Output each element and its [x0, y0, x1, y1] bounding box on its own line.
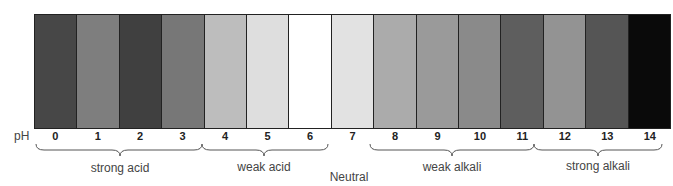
brace-strong-acid	[36, 144, 202, 156]
group-label-strong-acid: strong acid	[91, 161, 150, 175]
brace-weak-alkali	[370, 144, 534, 156]
brace-weak-acid	[202, 144, 328, 156]
group-label-weak-acid: weak acid	[237, 160, 290, 174]
group-label-strong-alkali: strong alkali	[566, 159, 630, 173]
group-label-weak-alkali: weak alkali	[423, 160, 482, 174]
group-label-neutral: Neutral	[330, 170, 369, 184]
brace-strong-alkali	[534, 144, 662, 156]
